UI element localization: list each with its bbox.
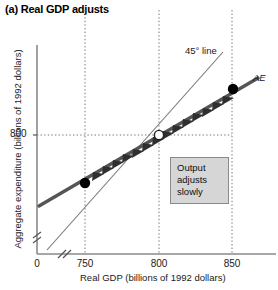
marker-below-equilibrium	[80, 178, 90, 188]
origin-label: 0	[34, 258, 40, 269]
y-tick-label-800: 800	[10, 128, 27, 139]
annotation-line-1: Output	[177, 162, 223, 174]
y-axis-label: Aggregate expenditure (billions of 1992 …	[12, 59, 23, 249]
marker-above-equilibrium	[228, 84, 238, 94]
annotation-line-3: slowly	[177, 186, 223, 198]
marker-equilibrium-open	[154, 130, 163, 139]
x-axis-label: Real GDP (billions of 1992 dollars)	[80, 272, 226, 283]
x-tick-label-800: 800	[151, 258, 168, 269]
forty-five-degree-line-label: 45° line	[185, 45, 217, 56]
x-tick-label-750: 750	[77, 258, 94, 269]
ae-line-label: AE	[253, 72, 266, 83]
annotation-line-2: adjusts	[177, 174, 223, 186]
chart-canvas	[0, 0, 278, 290]
annotation-output-adjusts-slowly: Output adjusts slowly	[170, 157, 229, 204]
figure-panel: (a) Real GDP adjusts	[0, 0, 278, 290]
x-tick-label-850: 850	[224, 258, 241, 269]
